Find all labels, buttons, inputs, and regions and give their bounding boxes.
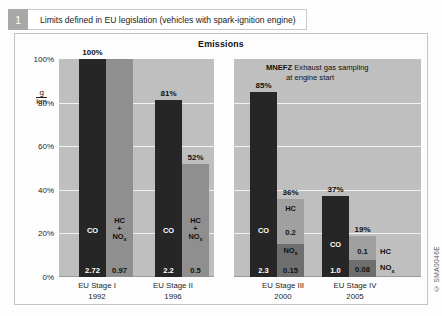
bar-stage2-hcnox[interactable]: 52% HC+NOx 0.5 (182, 164, 209, 277)
bar-percent-label: 100% (82, 48, 102, 57)
bar-percent-label: 36% (282, 188, 298, 197)
bar-percent-label: 19% (354, 225, 370, 234)
bar-value-label: 0.15 (283, 266, 298, 275)
bar-segment-hc: 36% HC 0.2 (277, 199, 304, 245)
bar-series-label: HC+NOx (188, 217, 202, 243)
bar-series-label: HC (285, 205, 296, 213)
x-label-stage-year: 1992 (59, 291, 135, 302)
caption-badge-number: 1 (8, 9, 28, 30)
x-label-stage-name: EU Stage I (59, 280, 135, 291)
y-tick-0: 0% (42, 273, 54, 282)
x-label-stage4: EU Stage IV 2005 (317, 280, 393, 303)
x-label-stage-year: 1996 (135, 291, 211, 302)
bar-percent-label: 52% (187, 153, 203, 162)
y-axis-unit-numerator: g (36, 89, 47, 97)
bar-stage4-hcnox[interactable]: 19% 0.1 HC 0.08 NOx (349, 236, 376, 277)
x-label-stage-name: EU Stage II (135, 280, 211, 291)
x-label-stage1: EU Stage I 1992 (59, 280, 135, 303)
bar-series-label: NOx (283, 247, 297, 257)
chart-title: Emissions (15, 39, 427, 49)
bar-value-label: 2.72 (85, 266, 100, 275)
x-label-stage-name: EU Stage IV (317, 280, 393, 291)
bar-value-label: 1.0 (330, 266, 341, 275)
plot-panel-left: 100% CO 2.72 HC+NOx 0.97 81% CO 2.2 (59, 59, 214, 277)
y-tick-60: 60% (38, 142, 54, 151)
bar-series-label: CO (163, 227, 174, 235)
x-label-stage-year: 2005 (317, 291, 393, 302)
bar-segment-co: 85% CO 2.3 (250, 92, 277, 277)
bar-segment-co: 100% CO 2.72 (79, 59, 106, 277)
bar-percent-label: 81% (160, 89, 176, 98)
y-axis: 100% 80% 60% 40% 20% 0% g km (15, 59, 59, 277)
bar-stage4-co[interactable]: 37% CO 1.0 (322, 196, 349, 277)
bar-value-label: 0.97 (112, 266, 127, 275)
bar-stage3-co[interactable]: 85% CO 2.3 (250, 92, 277, 277)
bar-stage1-hcnox[interactable]: HC+NOx 0.97 (106, 59, 133, 277)
bar-value-label: 2.3 (258, 266, 269, 275)
caption-text: Limits defined in EU legislation (vehicl… (28, 9, 307, 30)
x-label-stage-name: EU Stage III (245, 280, 321, 291)
y-axis-unit: g km (36, 89, 47, 107)
mnefz-line1: Exhaust gas sampling (294, 63, 368, 72)
plot-panel-right: MNEFZ Exhaust gas sampling at engine sta… (234, 59, 421, 277)
bar-segment-hc-nox: HC+NOx 0.97 (106, 59, 133, 277)
bar-stage3-hcnox[interactable]: 36% HC 0.2 NOx 0.15 (277, 199, 304, 277)
bar-segment-co: 37% CO 1.0 (322, 196, 349, 277)
y-tick-20: 20% (38, 229, 54, 238)
y-tick-100: 100% (34, 55, 54, 64)
bar-stage1-co[interactable]: 100% CO 2.72 (79, 59, 106, 277)
bar-percent-label: 85% (255, 81, 271, 90)
bar-segment-hc-nox: 52% HC+NOx 0.5 (182, 164, 209, 277)
figure-root: 1 Limits defined in EU legislation (vehi… (0, 0, 442, 316)
bar-value-label: 0.5 (190, 266, 201, 275)
x-label-stage-year: 2000 (245, 291, 321, 302)
x-label-stage3: EU Stage III 2000 (245, 280, 321, 303)
bar-value-label: 0.1 (357, 247, 368, 256)
bar-series-label: CO (87, 227, 98, 235)
bar-series-label: HC+NOx (112, 217, 126, 243)
bar-percent-label: 37% (327, 185, 343, 194)
bar-value-label: 0.2 (285, 228, 296, 237)
bar-segment-co: 81% CO 2.2 (155, 100, 182, 277)
bar-side-label-nox: NOx (380, 263, 395, 274)
bar-segment-hc: 19% 0.1 HC (349, 236, 376, 260)
bar-segment-nox: NOx 0.15 (277, 244, 304, 277)
x-label-stage2: EU Stage II 1996 (135, 280, 211, 303)
bar-value-label: 0.08 (355, 265, 370, 274)
y-axis-unit-denominator: km (36, 97, 47, 106)
bar-stage2-co[interactable]: 81% CO 2.2 (155, 100, 182, 277)
bar-side-label-hc: HC (380, 247, 391, 256)
bar-segment-nox: 0.08 NOx (349, 260, 376, 277)
chart-frame: Emissions 100% 80% 60% 40% 20% 0% g km (14, 33, 428, 305)
caption-bar: 1 Limits defined in EU legislation (vehi… (8, 9, 307, 30)
mnefz-keyword: MNEFZ (266, 63, 292, 72)
bar-series-label: CO (330, 241, 341, 249)
bar-value-label: 2.2 (163, 266, 174, 275)
mnefz-annotation: MNEFZ Exhaust gas sampling at engine sta… (266, 63, 369, 84)
y-tick-40: 40% (38, 185, 54, 194)
mnefz-line2: at engine start (266, 73, 369, 83)
bar-series-label: CO (258, 227, 269, 235)
copyright-watermark: © SMA0046E (433, 246, 440, 292)
